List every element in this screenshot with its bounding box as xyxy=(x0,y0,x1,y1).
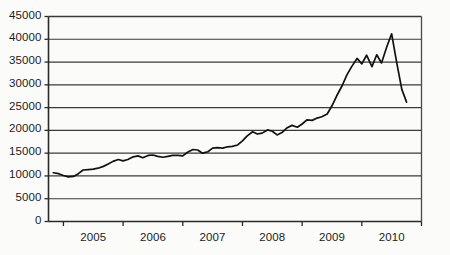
x-tick-label: 2010 xyxy=(367,231,417,243)
plot-canvas xyxy=(0,0,450,255)
gridline-group xyxy=(49,17,422,222)
x-tick-label: 2006 xyxy=(128,231,178,243)
plot-frame xyxy=(49,17,422,222)
y-tick-label: 5000 xyxy=(16,191,42,203)
line-chart: 4500040000350003000025000200001500010000… xyxy=(0,0,450,255)
y-tick-label: 45000 xyxy=(9,9,41,21)
x-tick-label: 2007 xyxy=(188,231,238,243)
x-tick-label: 2005 xyxy=(68,231,118,243)
y-tick-label: 20000 xyxy=(9,122,41,134)
y-tick-label: 30000 xyxy=(9,77,41,89)
data-line-group xyxy=(53,34,406,177)
y-tick-label: 0 xyxy=(35,214,42,226)
y-tick-label: 40000 xyxy=(9,31,41,43)
x-tick-label: 2008 xyxy=(247,231,297,243)
data-line xyxy=(53,34,406,177)
y-tick-label: 25000 xyxy=(9,100,41,112)
y-tick-label: 35000 xyxy=(9,54,41,66)
x-tick-label: 2009 xyxy=(307,231,357,243)
y-tick-label: 10000 xyxy=(9,168,41,180)
y-tick-label: 15000 xyxy=(9,145,41,157)
